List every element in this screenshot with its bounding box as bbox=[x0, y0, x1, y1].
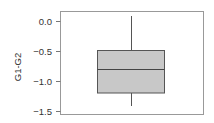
box-plot-series bbox=[98, 16, 165, 106]
interquartile-box bbox=[98, 51, 165, 94]
y-tick-label: 0.0 bbox=[39, 16, 52, 27]
box-plot-chart: 0.0 −0.5 −1.0 −1.5 G1-G2 bbox=[0, 0, 214, 123]
y-tick-label: −1.0 bbox=[33, 76, 52, 87]
y-axis-label: G1-G2 bbox=[12, 53, 23, 82]
y-tick-label: −0.5 bbox=[33, 46, 52, 57]
y-axis: 0.0 −0.5 −1.0 −1.5 G1-G2 bbox=[12, 16, 61, 117]
chart-canvas: 0.0 −0.5 −1.0 −1.5 G1-G2 bbox=[0, 0, 214, 123]
y-tick-label: −1.5 bbox=[33, 106, 52, 117]
